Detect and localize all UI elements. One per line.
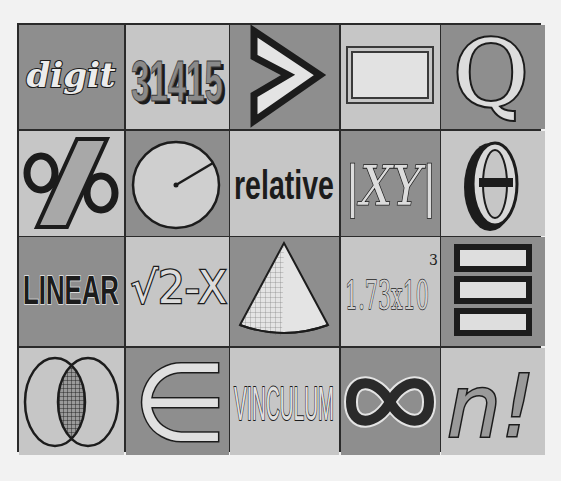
linear-word-art: LINEAR <box>19 237 124 346</box>
identical-to-icon <box>441 237 545 346</box>
number-31415-art: 31415 31415 <box>126 25 229 129</box>
element-of-icon: ∈ <box>126 348 229 455</box>
tile-relative: relative <box>230 131 339 236</box>
tile-infinity <box>341 348 440 455</box>
cone-icon <box>230 237 339 346</box>
tile-theta <box>441 131 545 236</box>
tile-factorial: n! <box>441 348 545 455</box>
svg-text:VINCULUM: VINCULUM <box>234 377 334 430</box>
tile-absolute-value: |XY| <box>341 131 440 236</box>
square-root-art: √2-X <box>126 237 229 346</box>
math-vocabulary-grid: digit 31415 31415 Q <box>17 23 541 452</box>
svg-text:relative: relative <box>234 163 334 207</box>
tile-linear: LINEAR <box>19 237 124 346</box>
factorial-art: n! <box>441 348 545 455</box>
svg-text:1.73x10: 1.73x10 <box>345 272 429 318</box>
circle-radius-icon <box>126 131 229 236</box>
absolute-value-art: |XY| <box>341 131 440 236</box>
tile-venn-diagram <box>19 348 124 455</box>
tile-vinculum: VINCULUM <box>230 348 339 455</box>
svg-text:Q: Q <box>453 25 528 127</box>
tile-square-root: √2-X <box>126 237 229 346</box>
svg-text:√2-X: √2-X <box>131 262 227 313</box>
relative-word-art: relative <box>230 131 339 236</box>
tile-rectangle <box>341 25 440 129</box>
tile-circle <box>126 131 229 236</box>
greater-than-icon <box>230 25 339 129</box>
venn-intersection-icon <box>19 348 124 455</box>
svg-text:31415: 31415 <box>131 48 223 113</box>
tile-greater-than <box>230 25 339 129</box>
tile-digit: digit <box>19 25 124 129</box>
svg-text:digit: digit <box>26 55 115 95</box>
letter-q-art: Q <box>441 25 545 129</box>
tile-Q: Q <box>441 25 545 129</box>
svg-text:3: 3 <box>429 252 438 268</box>
svg-text:∈: ∈ <box>132 348 226 455</box>
tile-element-of: ∈ <box>126 348 229 455</box>
tile-percent <box>19 131 124 236</box>
digit-word-art: digit <box>19 25 124 129</box>
svg-text:n!: n! <box>447 356 535 455</box>
rectangle-icon <box>341 25 440 129</box>
tile-31415: 31415 31415 <box>126 25 229 129</box>
tile-cone <box>230 237 339 346</box>
tile-scientific-notation: 1.73x10 3 <box>341 237 440 346</box>
infinity-icon <box>341 348 440 455</box>
theta-icon <box>441 131 545 236</box>
svg-text:LINEAR: LINEAR <box>23 268 119 312</box>
tile-identical-to <box>441 237 545 346</box>
scientific-notation-art: 1.73x10 3 <box>341 237 440 346</box>
vinculum-word-art: VINCULUM <box>230 348 339 455</box>
percent-icon <box>19 131 124 236</box>
svg-text:|XY|: |XY| <box>345 155 437 218</box>
